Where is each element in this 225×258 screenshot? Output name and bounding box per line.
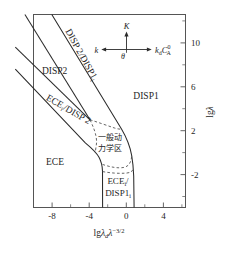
svg-text:lgλdλ−3/2: lgλdλ−3/2 xyxy=(94,227,125,239)
zone-label-ecei-disp1i: ECEi/ DISP1i xyxy=(105,176,131,199)
x-tick-label-1: -4 xyxy=(85,211,93,221)
inset-label-kd-ca: kdC0A xyxy=(155,44,171,56)
svg-text:DISP1i: DISP1i xyxy=(105,188,131,199)
y-tick-label-3: 10 xyxy=(191,38,201,48)
diagram-canvas: -8 -4 0 4 -2 2 6 10 lgλdλ−3/2 lgλ xyxy=(0,0,225,258)
zone-label-ece: ECE xyxy=(46,157,64,167)
y-tick-label-2: 6 xyxy=(191,82,196,92)
zone-label-disp2: DISP2 xyxy=(42,66,68,76)
x-axis-title: lgλdλ−3/2 xyxy=(94,227,125,239)
x-tick-label-0: -8 xyxy=(48,211,56,221)
zone-label-general-kinetic-line1: 一般动 xyxy=(98,132,122,142)
zone-label-ecei-disp1i-l1: ECE xyxy=(107,176,125,186)
zone-label-disp1: DISP1 xyxy=(133,91,159,101)
inset-label-theta: θ xyxy=(121,52,125,61)
svg-text:ECEi/: ECEi/ xyxy=(107,176,129,187)
svg-text:lgλ: lgλ xyxy=(205,106,215,118)
y-tick-label-0: -2 xyxy=(191,170,199,180)
zone-label-ecei-disp1i-s2: i xyxy=(129,192,131,199)
x-tick-label-3: 4 xyxy=(161,211,166,221)
zone-label-general-kinetic-line2: 力学区 xyxy=(98,143,122,153)
inset-label-k: k xyxy=(95,45,99,55)
y-tick-label-1: 2 xyxy=(191,126,196,136)
zone-label-ecei-disp1i-l2: DISP1 xyxy=(105,188,129,198)
inset-label-ca-sub: A xyxy=(166,50,171,56)
kinetic-zone-diagram: -8 -4 0 4 -2 2 6 10 lgλdλ−3/2 lgλ xyxy=(0,0,225,258)
x-tick-label-2: 0 xyxy=(124,211,129,221)
y-axis-title: lgλ xyxy=(205,106,215,118)
